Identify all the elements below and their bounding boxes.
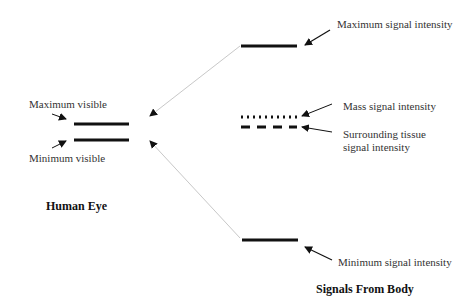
- connector-max: [150, 46, 240, 116]
- label-minimum-signal-intensity: Minimum signal intensity: [338, 256, 452, 269]
- arrow-min-visible: [52, 141, 66, 148]
- label-surrounding-tissue-line1: Surrounding tissue: [343, 128, 426, 141]
- arrow-max-signal: [305, 30, 330, 45]
- label-surrounding-tissue-line2: signal intensity: [343, 141, 410, 154]
- arrow-mass-signal: [302, 104, 332, 116]
- label-maximum-visible: Maximum visible: [29, 98, 107, 111]
- arrow-surrounding-signal: [302, 127, 332, 132]
- label-mass-signal-intensity: Mass signal intensity: [343, 100, 436, 113]
- arrow-max-visible: [52, 114, 66, 119]
- title-human-eye: Human Eye: [46, 200, 107, 213]
- title-signals-from-body: Signals From Body: [316, 283, 414, 296]
- label-minimum-visible: Minimum visible: [29, 152, 105, 165]
- label-maximum-signal-intensity: Maximum signal intensity: [337, 18, 453, 31]
- connector-min: [150, 141, 240, 238]
- arrow-min-signal: [305, 247, 332, 260]
